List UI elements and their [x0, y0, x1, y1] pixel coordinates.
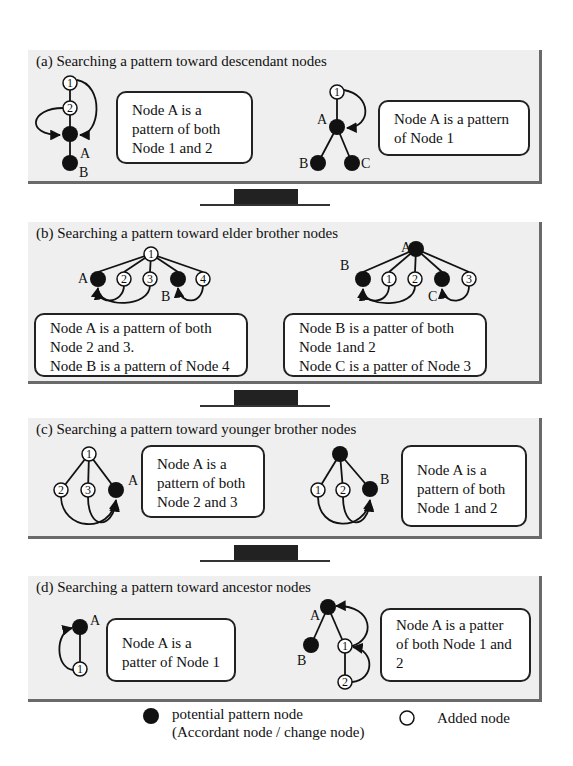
legend-open-label: Added node [437, 709, 510, 727]
panel-b-elder-brother: (b) Searching a pattern toward elder bro… [28, 222, 542, 384]
text-line: pattern of both [417, 480, 515, 499]
text-line: 2 [396, 654, 519, 673]
text-line: Node 2 and 3. [50, 338, 236, 357]
text-line: Node A is a [132, 101, 241, 120]
panel-c-younger-brother: (c) Searching a pattern toward younger b… [28, 418, 542, 539]
text-line: Node 1 and 2 [417, 499, 515, 518]
panel-a-title: (a) Searching a pattern toward descendan… [36, 53, 327, 70]
legend-filled-label: potential pattern node (Accordant node /… [172, 705, 364, 741]
text-line: pattern of both [157, 474, 253, 493]
text-line: Node A is a pattern of both [50, 319, 236, 338]
text-line: Node C is a patter of Node 3 [299, 357, 475, 376]
legend-text: potential pattern node [172, 705, 364, 723]
text-line: pattern of both [132, 120, 241, 139]
panel-d-ancestor: (d) Searching a pattern toward ancestor … [28, 576, 542, 702]
text-line: Node A is a [417, 461, 515, 480]
legend-text: Added node [437, 709, 510, 727]
legend-open-node-icon [400, 711, 414, 725]
text-line: Node A is a [157, 455, 253, 474]
panel-c-title: (c) Searching a pattern toward younger b… [36, 421, 356, 438]
text-line: Node B is a pattern of Node 4 [50, 357, 236, 376]
panel-d-left-description: Node A is a patter of Node 1 [106, 618, 236, 682]
text-line: Node A is a patter [396, 616, 519, 635]
panel-a-left-description: Node A is a pattern of both Node 1 and 2 [116, 91, 253, 164]
text-line: Node B is a patter of both [299, 319, 475, 338]
panel-c-right-description: Node A is a pattern of both Node 1 and 2 [401, 445, 527, 527]
panel-c-left-description: Node A is a pattern of both Node 2 and 3 [141, 445, 265, 518]
text-line: Node 1and 2 [299, 338, 475, 357]
panel-b-title: (b) Searching a pattern toward elder bro… [36, 225, 338, 242]
text-line: Node A is a pattern [394, 110, 518, 129]
panel-d-title: (d) Searching a pattern toward ancestor … [36, 579, 311, 596]
panel-a-descendant: (a) Searching a pattern toward descendan… [28, 50, 542, 184]
legend-filled-node-icon [143, 708, 159, 724]
text-line: of Node 1 [394, 129, 518, 148]
panel-d-right-description: Node A is a patter of both Node 1 and 2 [380, 608, 531, 682]
panel-a-right-description: Node A is a pattern of Node 1 [378, 100, 530, 156]
text-line: Node 2 and 3 [157, 493, 253, 512]
panel-b-right-description: Node B is a patter of both Node 1and 2 N… [283, 313, 487, 377]
panel-b-left-description: Node A is a pattern of both Node 2 and 3… [34, 313, 248, 377]
text-line: Node A is a [122, 634, 224, 653]
legend-text: (Accordant node / change node) [172, 723, 364, 741]
text-line: of both Node 1 and [396, 635, 519, 654]
text-line: patter of Node 1 [122, 653, 224, 672]
text-line: Node 1 and 2 [132, 139, 241, 158]
